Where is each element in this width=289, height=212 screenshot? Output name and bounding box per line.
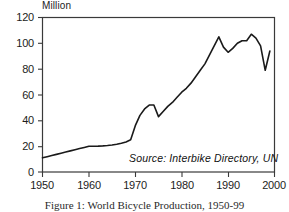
x-tick-label-1970: 1970	[115, 180, 155, 191]
x-tick-label-1980: 1980	[162, 180, 202, 191]
y-tick-label-0: 0	[4, 167, 34, 178]
source-annotation: Source: Interbike Directory, UN	[129, 152, 278, 164]
figure-caption: Figure 1: World Bicycle Production, 1950…	[0, 199, 289, 212]
y-tick-label-100: 100	[4, 38, 34, 49]
line-chart-canvas	[0, 0, 289, 196]
x-axis-tick-marks	[43, 172, 275, 177]
y-tick-label-120: 120	[4, 12, 34, 23]
x-tick-label-1960: 1960	[69, 180, 109, 191]
y-tick-label-40: 40	[4, 115, 34, 126]
y-axis-tick-marks	[38, 18, 43, 173]
y-tick-label-20: 20	[4, 141, 34, 152]
y-tick-label-80: 80	[4, 64, 34, 75]
y-tick-label-60: 60	[4, 90, 34, 101]
x-tick-label-1990: 1990	[208, 180, 248, 191]
x-tick-label-1950: 1950	[22, 180, 62, 191]
figure-world-bicycle-production: Million 120 100 80 60 40 20 0	[0, 0, 289, 212]
x-tick-label-2000: 2000	[254, 180, 289, 191]
